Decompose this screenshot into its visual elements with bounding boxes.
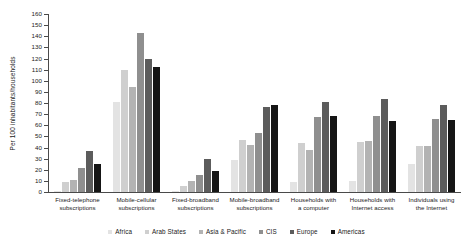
x-axis-group-label-line: Fixed-broadband xyxy=(166,196,225,204)
bar xyxy=(196,175,203,192)
y-axis-tick-label: 80 xyxy=(35,100,42,106)
bar-group: Mobile-cellularsubscriptions xyxy=(107,14,166,192)
x-axis-group-label-line: Internet access xyxy=(343,204,402,212)
bar xyxy=(314,117,321,192)
legend-item[interactable]: Americas xyxy=(331,228,365,235)
legend-swatch-icon xyxy=(199,230,203,234)
x-axis-group-label-line: Fixed-telephone xyxy=(48,196,107,204)
bar xyxy=(255,133,262,192)
x-axis-group-label-line: Households with xyxy=(343,196,402,204)
y-axis-tick-label: 20 xyxy=(35,167,42,173)
x-axis-group-label-line: Households with xyxy=(284,196,343,204)
legend-item[interactable]: Africa xyxy=(108,228,132,235)
x-axis-group-label: Households withInternet access xyxy=(343,196,402,211)
bar-groups: Fixed-telephonesubscriptionsMobile-cellu… xyxy=(48,14,461,192)
bar xyxy=(239,140,246,192)
bar xyxy=(389,121,396,192)
y-axis-tick-label: 40 xyxy=(35,144,42,150)
bar xyxy=(330,116,337,192)
bar-group: Households witha computer xyxy=(284,14,343,192)
bar xyxy=(62,182,69,192)
bar xyxy=(365,141,372,192)
y-axis-tick-label: 110 xyxy=(32,67,42,73)
legend-label: Africa xyxy=(115,228,132,235)
x-axis-group-label: Individuals usingthe Internet xyxy=(402,196,461,211)
bar xyxy=(290,182,297,192)
x-axis-group-label-line: subscriptions xyxy=(225,204,284,212)
legend-item[interactable]: Arab States xyxy=(145,228,186,235)
y-axis-tick xyxy=(44,192,48,193)
bar xyxy=(113,102,120,192)
y-axis-tick-label: 160 xyxy=(31,11,42,17)
y-axis-tick-label: 10 xyxy=(35,178,42,184)
chart-legend: AfricaArab StatesAsia & PacificCISEurope… xyxy=(0,228,473,235)
bar xyxy=(424,146,431,192)
legend-swatch-icon xyxy=(290,230,294,234)
legend-item[interactable]: Europe xyxy=(290,228,318,235)
bar xyxy=(306,150,313,192)
x-axis-group-label-line: subscriptions xyxy=(166,204,225,212)
bar-chart: Per 100 inhabitants/households 010203040… xyxy=(0,0,473,252)
x-axis-line xyxy=(48,192,461,193)
bar xyxy=(263,107,270,192)
bar xyxy=(54,191,61,192)
bar xyxy=(271,105,278,192)
y-axis-tick-label: 130 xyxy=(31,44,42,50)
bar xyxy=(94,164,101,192)
legend-label: Americas xyxy=(338,228,365,235)
x-axis-group-label: Fixed-telephonesubscriptions xyxy=(48,196,107,211)
bar xyxy=(357,142,364,192)
bar xyxy=(78,168,85,192)
bar xyxy=(231,160,238,192)
bar xyxy=(137,33,144,192)
legend-swatch-icon xyxy=(331,230,335,234)
bar-group: Households withInternet access xyxy=(343,14,402,192)
x-axis-group-label: Fixed-broadbandsubscriptions xyxy=(166,196,225,211)
bar xyxy=(188,181,195,192)
bar-group: Individuals usingthe Internet xyxy=(402,14,461,192)
bar xyxy=(212,171,219,192)
x-axis-group-label-line: subscriptions xyxy=(107,204,166,212)
bar xyxy=(322,102,329,192)
bar xyxy=(373,116,380,192)
bar-group: Fixed-telephonesubscriptions xyxy=(48,14,107,192)
x-axis-group-label: Mobile-broadbandsubscriptions xyxy=(225,196,284,211)
bar xyxy=(408,164,415,192)
x-axis-group-label-line: subscriptions xyxy=(48,204,107,212)
legend-swatch-icon xyxy=(259,230,263,234)
x-axis-group-label-line: Mobile-cellular xyxy=(107,196,166,204)
y-axis-tick-label: 90 xyxy=(35,89,42,95)
y-axis-title: Per 100 inhabitants/households xyxy=(6,14,18,192)
bar xyxy=(86,151,93,192)
y-axis-tick-label: 120 xyxy=(31,55,42,61)
x-axis-group-label-line: Mobile-broadband xyxy=(225,196,284,204)
y-axis-tick-label: 70 xyxy=(35,111,42,117)
bar xyxy=(180,186,187,192)
legend-label: Europe xyxy=(297,228,318,235)
bar-group: Mobile-broadbandsubscriptions xyxy=(225,14,284,192)
bar xyxy=(247,145,254,192)
y-axis-tick-label: 30 xyxy=(35,156,42,162)
legend-swatch-icon xyxy=(108,230,112,234)
bar xyxy=(349,181,356,192)
y-axis-tick-label: 50 xyxy=(35,133,42,139)
legend-label: Arab States xyxy=(152,228,186,235)
x-axis-group-label-line: the Internet xyxy=(402,204,461,212)
legend-label: Asia & Pacific xyxy=(206,228,246,235)
legend-item[interactable]: CIS xyxy=(259,228,277,235)
legend-label: CIS xyxy=(266,228,277,235)
x-axis-group-label-line: Individuals using xyxy=(402,196,461,204)
legend-item[interactable]: Asia & Pacific xyxy=(199,228,246,235)
bar xyxy=(204,159,211,192)
bar xyxy=(70,180,77,192)
bar xyxy=(153,67,160,192)
y-axis-tick-label: 140 xyxy=(31,33,42,39)
y-axis-tick-label: 60 xyxy=(35,122,42,128)
bar xyxy=(172,191,179,192)
y-axis-tick-label: 150 xyxy=(31,22,42,28)
y-axis-title-text: Per 100 inhabitants/households xyxy=(9,56,16,150)
y-axis-tick-label: 0 xyxy=(38,189,42,195)
bar xyxy=(121,70,128,192)
bar xyxy=(448,120,455,192)
x-axis-group-label: Mobile-cellularsubscriptions xyxy=(107,196,166,211)
